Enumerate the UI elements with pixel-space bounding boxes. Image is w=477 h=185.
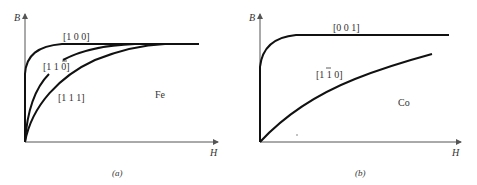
label-111: [1 1 1] xyxy=(58,92,85,103)
panel-a: B H [1 0 0] [1 1 0] [1 1 1] Fe (a) xyxy=(14,12,218,178)
curve-001 xyxy=(260,35,449,142)
caption-a: (a) xyxy=(112,168,123,178)
y-axis-label: B xyxy=(14,12,20,23)
x-axis-label: H xyxy=(209,147,218,158)
label-100: [1 0 0] xyxy=(63,31,90,42)
curve-100 xyxy=(25,44,199,142)
panel-b: B H [0 0 1] [1 1 0] Co (b) xyxy=(249,12,461,178)
magnetization-figure: B H [1 0 0] [1 1 0] [1 1 1] Fe (a) B H [… xyxy=(0,0,477,185)
material-label-co: Co xyxy=(398,97,410,108)
curve-110-lower xyxy=(25,74,49,142)
y-axis-label: B xyxy=(249,12,255,23)
label-001: [0 0 1] xyxy=(333,22,360,33)
curve-111 xyxy=(25,44,165,142)
label-1m10: [1 1 0] xyxy=(316,69,343,80)
x-axis-label: H xyxy=(451,147,460,158)
material-label-fe: Fe xyxy=(155,89,166,100)
caption-b: (b) xyxy=(355,168,366,178)
stray-dot xyxy=(296,134,298,136)
label-110: [1 1 0] xyxy=(43,61,70,72)
